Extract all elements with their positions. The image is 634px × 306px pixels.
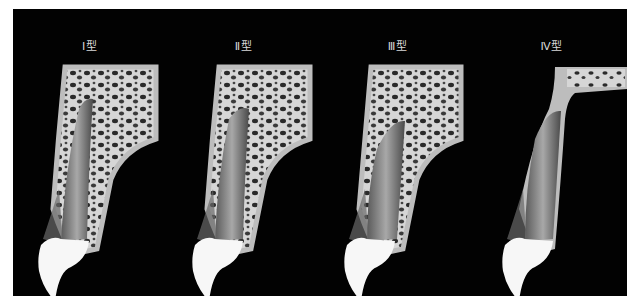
panel-type-3: Ⅲ型: [321, 9, 474, 296]
panel-type-2: Ⅱ型: [167, 9, 320, 296]
tooth-bone-illustration: [13, 9, 166, 296]
tooth-bone-illustration: [475, 9, 628, 296]
panel-type-1: Ⅰ型: [13, 9, 166, 296]
figure-frame: Ⅰ型: [13, 9, 627, 296]
panel-type-4: Ⅳ型: [475, 9, 628, 296]
tooth-bone-illustration: [167, 9, 320, 296]
tooth-bone-illustration: [321, 9, 474, 296]
